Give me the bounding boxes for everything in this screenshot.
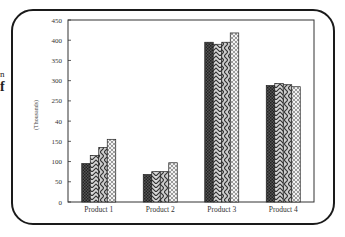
y-tick-label: 450 [52,17,63,25]
bar-4 [107,139,116,202]
bar-chart: 05010015040250300350400450(Thousands)Pro… [0,0,345,237]
bar-3 [160,172,169,202]
bar-1 [266,86,275,202]
y-tick-label: 400 [52,37,63,45]
bar-1 [82,164,91,202]
y-tick-label: 350 [52,57,63,65]
bar-3 [99,147,108,202]
bar-2 [90,155,99,202]
y-tick-label: 50 [55,178,63,186]
y-axis-label: (Thousands) [33,100,40,130]
x-category-label: Product 3 [207,205,236,214]
y-tick-label: 150 [52,138,63,146]
x-category-label: Product 4 [269,205,298,214]
x-category-label: Product 1 [84,205,113,214]
y-tick-label: 300 [52,77,63,85]
bar-3 [222,42,231,202]
bar-4 [169,163,178,202]
y-tick-label: 40 [55,118,63,126]
bar-3 [283,85,292,202]
bar-1 [205,42,214,202]
bar-2 [275,83,284,202]
y-tick-label: 100 [52,158,63,166]
bar-4 [230,33,239,202]
bar-1 [143,174,152,202]
y-tick-label: 0 [59,199,63,207]
bar-2 [152,172,161,202]
bar-2 [213,44,222,202]
bar-4 [292,87,301,202]
x-category-label: Product 2 [146,205,175,214]
y-tick-label: 250 [52,97,63,105]
